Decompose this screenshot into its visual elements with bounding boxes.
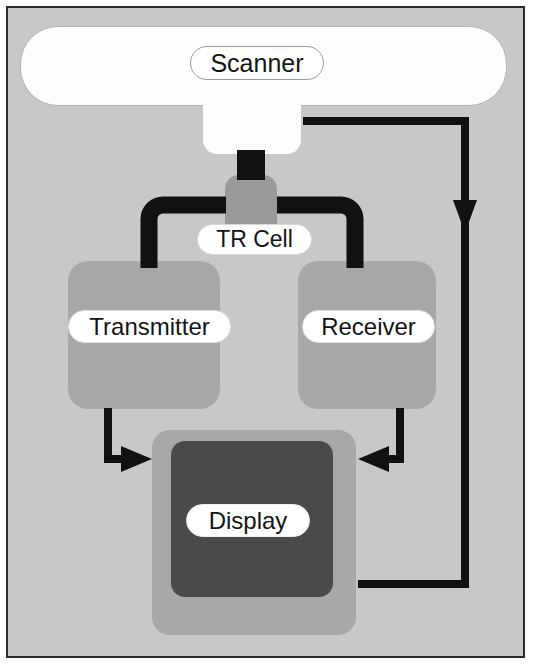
tr-cell-label: TR Cell (197, 224, 312, 255)
receiver-label: Receiver (302, 310, 435, 343)
display-label: Display (186, 504, 310, 537)
transmitter-label: Transmitter (68, 310, 231, 343)
scanner-label: Scanner (190, 46, 324, 80)
scanner-neck (203, 104, 301, 154)
diagram-canvas: Scanner TR Cell Transmitter Receiver Dis… (0, 0, 535, 664)
